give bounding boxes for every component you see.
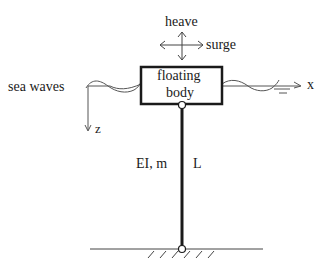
heave-label: heave (165, 15, 198, 29)
sea-waves-right (222, 80, 301, 93)
sea-waves-label: sea waves (8, 80, 64, 94)
ei-m-label: EI, m (136, 157, 167, 171)
z-axis-label: z (95, 122, 101, 135)
sea-waves-left (86, 81, 141, 92)
x-axis-label: x (307, 78, 314, 92)
surge-label: surge (206, 38, 236, 52)
body-label: body (166, 86, 194, 100)
floating-label: floating (157, 69, 201, 83)
z-axis-icon (85, 86, 91, 131)
diagram-canvas (0, 0, 331, 275)
length-label: L (193, 157, 202, 171)
motion-arrows-icon (160, 32, 203, 60)
top-hinge-icon (179, 102, 186, 109)
bottom-hinge-icon (179, 246, 186, 253)
